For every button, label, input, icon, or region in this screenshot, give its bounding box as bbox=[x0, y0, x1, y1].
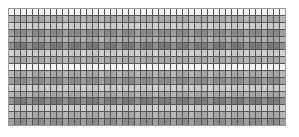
grid-cell[interactable] bbox=[280, 30, 285, 36]
grid-row[interactable] bbox=[9, 85, 285, 92]
grid-cell[interactable] bbox=[280, 119, 285, 125]
grid-row[interactable] bbox=[9, 112, 285, 119]
grid-cell[interactable] bbox=[280, 23, 285, 29]
grid-row[interactable] bbox=[9, 98, 285, 105]
grid-cell[interactable] bbox=[280, 71, 285, 77]
grid-cell[interactable] bbox=[280, 16, 285, 22]
grid-row[interactable] bbox=[9, 64, 285, 71]
grid-cell[interactable] bbox=[280, 64, 285, 70]
grid-cell[interactable] bbox=[280, 112, 285, 118]
grid-row[interactable] bbox=[9, 119, 285, 125]
grid-row[interactable] bbox=[9, 37, 285, 44]
grid-cell[interactable] bbox=[280, 57, 285, 63]
grid-row[interactable] bbox=[9, 9, 285, 16]
grid-row[interactable] bbox=[9, 92, 285, 99]
page-canvas bbox=[0, 0, 299, 137]
grid-cell[interactable] bbox=[280, 105, 285, 111]
grid-cell[interactable] bbox=[280, 9, 285, 15]
grid-cell[interactable] bbox=[280, 85, 285, 91]
grid-cell[interactable] bbox=[280, 43, 285, 49]
data-grid[interactable] bbox=[8, 8, 286, 126]
grid-row[interactable] bbox=[9, 16, 285, 23]
grid-row[interactable] bbox=[9, 57, 285, 64]
grid-cell[interactable] bbox=[280, 92, 285, 98]
grid-cell[interactable] bbox=[280, 98, 285, 104]
data-grid-body bbox=[9, 9, 285, 125]
grid-cell[interactable] bbox=[280, 37, 285, 43]
grid-row[interactable] bbox=[9, 105, 285, 112]
grid-row[interactable] bbox=[9, 50, 285, 57]
grid-row[interactable] bbox=[9, 23, 285, 30]
grid-row[interactable] bbox=[9, 71, 285, 78]
grid-cell[interactable] bbox=[280, 78, 285, 84]
grid-row[interactable] bbox=[9, 30, 285, 37]
grid-row[interactable] bbox=[9, 43, 285, 50]
grid-row[interactable] bbox=[9, 78, 285, 85]
grid-cell[interactable] bbox=[280, 50, 285, 56]
